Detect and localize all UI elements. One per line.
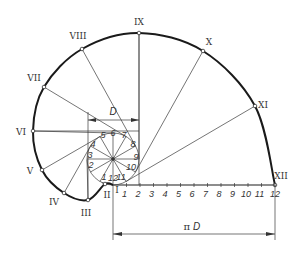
involute-point-label: XII <box>274 171 288 181</box>
circle-division-label: 3 <box>87 150 92 160</box>
involute-point <box>253 104 257 108</box>
baseline-tick-label: 12 <box>270 189 280 199</box>
involute-point <box>103 182 107 186</box>
involute-point <box>80 47 84 51</box>
involute-point-label: IX <box>134 17 145 27</box>
involute-diagram: D π D IIIIIIIVVVIVIIVIIIIXXXIXII12345678… <box>0 0 301 264</box>
involute-path <box>33 33 275 200</box>
involute-point-label: IV <box>49 197 60 207</box>
baseline-tick-label: 2 <box>134 189 140 199</box>
circumference-label-d: D <box>193 221 200 232</box>
circle-division-label: 6 <box>110 128 115 138</box>
circle-division-label: 12 <box>108 173 118 183</box>
baseline-tick-label: 4 <box>162 189 167 199</box>
circle-division-label: 2 <box>87 160 93 170</box>
baseline-tick-label: 5 <box>176 189 182 199</box>
diameter-dimension: D <box>88 106 139 122</box>
involute-point <box>40 168 44 172</box>
diameter-label: D <box>109 106 116 117</box>
involute-point <box>31 129 35 133</box>
involute-point-label: V <box>26 166 34 176</box>
baseline-tick-label: 9 <box>230 189 235 199</box>
involute-point-label: VII <box>26 73 41 83</box>
arrowhead-right <box>131 118 139 122</box>
circumference-label-pi: π <box>183 221 190 232</box>
tangent-line <box>82 49 136 146</box>
circle-division-label: 1 <box>101 172 106 182</box>
baseline-tick-label: 1 <box>122 189 127 199</box>
circle-division-label: 9 <box>133 152 138 162</box>
circle-division-label: 4 <box>90 139 95 149</box>
unrolled-baseline <box>113 183 275 187</box>
involute-curve <box>31 31 277 202</box>
involute-point-label: VIII <box>68 31 87 41</box>
baseline-tick-label: 8 <box>216 189 221 199</box>
involute-point-label: XI <box>258 100 268 110</box>
involute-point-label: II <box>103 190 111 200</box>
arrowhead-right <box>266 232 275 236</box>
involute-point-label: III <box>81 208 92 218</box>
involute-point <box>42 85 46 89</box>
circle-division-label: 10 <box>126 162 136 172</box>
involute-point-label: VI <box>15 127 26 137</box>
baseline-tick-label: 6 <box>189 189 194 199</box>
circle-division-label: 8 <box>130 139 135 149</box>
baseline-tick-label: 11 <box>255 189 264 199</box>
involute-point <box>137 31 141 35</box>
tangent-line <box>64 146 90 193</box>
tangent-line <box>126 106 255 181</box>
tangent-line <box>136 51 203 172</box>
arrowhead-left <box>88 118 96 122</box>
involute-point <box>201 49 205 53</box>
involute-point <box>86 198 90 202</box>
circle-division-label: 5 <box>100 130 106 140</box>
baseline-tick-label: 10 <box>241 189 251 199</box>
baseline-tick-label: 3 <box>149 189 154 199</box>
arrowhead-left <box>113 232 122 236</box>
involute-point-label: X <box>206 37 213 47</box>
involute-point <box>62 191 66 195</box>
circle-division-label: 7 <box>121 130 127 140</box>
baseline-tick-label: 7 <box>203 189 209 199</box>
involute-point-label: I <box>115 185 119 195</box>
